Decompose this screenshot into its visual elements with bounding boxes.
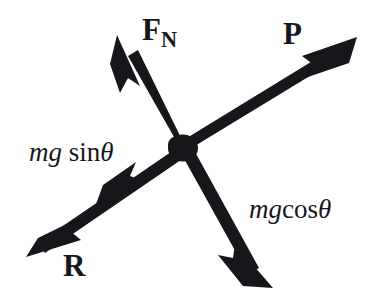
weight-perpendicular-label: mgcosθ <box>249 196 331 223</box>
weight-parallel-sin: sin <box>69 137 101 167</box>
normal-force-label: FN <box>142 14 177 51</box>
normal-force-symbol: F <box>142 12 161 47</box>
weight-perpendicular-theta: θ <box>318 194 331 224</box>
reaction-force-symbol: R <box>63 248 85 283</box>
weight-perpendicular-shaft <box>177 141 259 274</box>
force-vector-diagram: FN P mg sinθ mgcosθ R <box>0 0 376 300</box>
weight-parallel-mg: mg <box>29 137 62 167</box>
weight-perpendicular-mg: mg <box>249 194 282 224</box>
applied-force-label: P <box>283 18 302 49</box>
applied-force-arrowhead <box>302 37 357 78</box>
weight-parallel-theta: θ <box>100 137 113 167</box>
reaction-force-label: R <box>63 250 85 281</box>
weight-parallel-label: mg sinθ <box>29 139 114 166</box>
normal-force-subscript: N <box>161 27 177 52</box>
vector-origin-junction <box>168 135 198 162</box>
applied-force-symbol: P <box>283 16 302 51</box>
weight-perpendicular-cos: cos <box>282 194 318 224</box>
